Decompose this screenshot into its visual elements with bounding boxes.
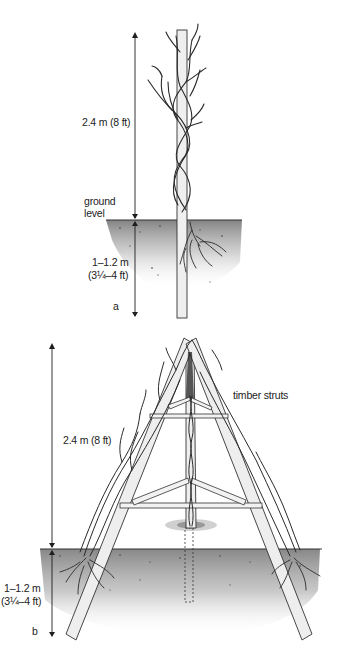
figure-a-height-label: 2.4 m (8 ft) [82,116,130,128]
figure-a-panel-letter: a [113,300,119,312]
figure-a-ground-label-line1: ground [84,195,116,207]
dimension-arrow-a-above [132,32,138,219]
figure-a-depth-label-line2: (3¼–4 ft) [88,269,128,281]
figure-a-ground-label-line2: level [84,207,105,219]
dimension-arrow-b-above [49,343,55,548]
figure-b-struts-label: timber struts [233,389,288,401]
figure-b-panel-letter: b [32,625,38,637]
figure-b-depth-label-line2: (3¼–4 ft) [1,595,41,607]
figure-b-height-label: 2.4 m (8 ft) [63,434,111,446]
figure-b-depth-label-line1: 1–1.2 m [4,582,41,594]
figure-a-drawing [0,0,355,663]
illustration-canvas: 2.4 m (8 ft) ground level 1–1.2 m (3¼–4 … [0,0,355,663]
figure-a-depth-label-line1: 1–1.2 m [92,256,129,268]
